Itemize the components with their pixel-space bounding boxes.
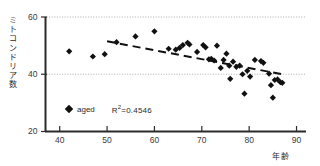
data-point-marker bbox=[227, 76, 233, 82]
data-point-marker bbox=[166, 46, 172, 52]
x-axis-label: 年齢 bbox=[272, 150, 290, 161]
chart-root: ミトコンドリア数 年齢 aged R2=0.4546 2040604050607… bbox=[0, 0, 320, 166]
y-axis-label-char: ン bbox=[6, 44, 20, 53]
data-point-marker bbox=[252, 57, 258, 63]
legend-r-squared-annotation: R2=0.4546 bbox=[112, 104, 152, 115]
data-point-marker bbox=[218, 65, 224, 71]
regression-trendline bbox=[107, 41, 282, 74]
x-tick-label: 70 bbox=[192, 135, 212, 145]
y-axis-label-char: ド bbox=[6, 53, 20, 62]
y-tick-label: 40 bbox=[22, 69, 38, 79]
data-point-marker bbox=[214, 43, 220, 49]
y-axis-label-char: ト bbox=[6, 25, 20, 34]
legend-marker-diamond-icon bbox=[65, 105, 73, 113]
legend-label-aged: aged bbox=[77, 105, 95, 114]
chart-legend: aged R2=0.4546 bbox=[66, 104, 152, 115]
y-tick-label: 20 bbox=[22, 126, 38, 136]
data-point-marker bbox=[151, 28, 157, 34]
data-point-marker bbox=[132, 33, 138, 39]
x-tick-label: 40 bbox=[50, 135, 70, 145]
y-axis-label: ミトコンドリア数 bbox=[6, 16, 20, 90]
data-point-marker bbox=[90, 53, 96, 59]
x-tick-label: 90 bbox=[287, 135, 307, 145]
data-point-marker bbox=[102, 51, 108, 57]
data-point-marker bbox=[220, 57, 226, 63]
x-tick-label: 60 bbox=[144, 135, 164, 145]
data-point-marker bbox=[241, 91, 247, 97]
data-point-marker bbox=[268, 82, 274, 88]
data-points bbox=[66, 28, 285, 101]
trend-line bbox=[107, 41, 282, 74]
y-axis-label-char: リ bbox=[6, 62, 20, 71]
data-point-marker bbox=[223, 51, 229, 57]
y-tick-label: 60 bbox=[22, 12, 38, 22]
y-axis-label-char: コ bbox=[6, 34, 20, 43]
data-point-marker bbox=[270, 95, 276, 101]
data-point-marker bbox=[239, 71, 245, 77]
x-tick-label: 80 bbox=[239, 135, 259, 145]
data-point-marker bbox=[194, 49, 200, 55]
y-axis-label-char: ミ bbox=[6, 16, 20, 25]
x-axis-ticks bbox=[60, 126, 297, 131]
gridlines bbox=[47, 17, 307, 74]
data-point-marker bbox=[230, 59, 236, 65]
y-axis-label-char: 数 bbox=[6, 80, 20, 89]
data-point-marker bbox=[66, 48, 72, 54]
r-squared-superscript: 2 bbox=[118, 104, 122, 110]
data-point-marker bbox=[113, 39, 119, 45]
x-tick-label: 50 bbox=[97, 135, 117, 145]
